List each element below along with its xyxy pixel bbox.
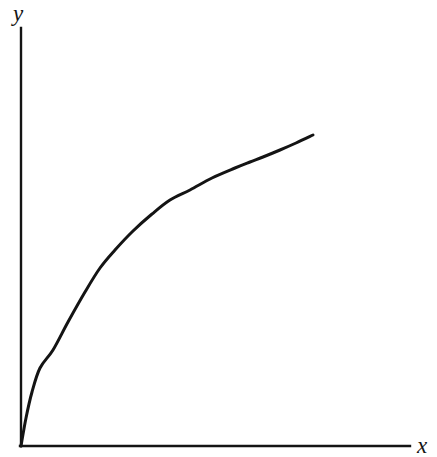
curve-line xyxy=(21,135,313,446)
data-series-group xyxy=(21,135,313,446)
plot-canvas xyxy=(0,0,437,457)
x-axis-label: x xyxy=(417,434,427,457)
axes xyxy=(20,28,410,446)
y-axis-label: y xyxy=(13,2,23,25)
graph-figure: y x xyxy=(0,0,437,457)
